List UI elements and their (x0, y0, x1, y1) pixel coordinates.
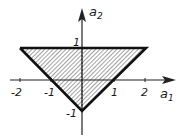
region-plot: -2 -1 1 2 1 -1 a 1 a 2 (0, 0, 190, 140)
x-tick-label: -1 (44, 86, 55, 99)
x-tick-label: 2 (141, 86, 148, 99)
y-axis-label-subscript: 2 (97, 11, 103, 21)
x-axis-label-subscript: 1 (168, 93, 174, 103)
y-axis-label: a (89, 4, 97, 19)
diagram: -2 -1 1 2 1 -1 a 1 a 2 (0, 0, 190, 140)
x-axis-label: a (160, 86, 168, 101)
x-tick-label: -2 (11, 86, 22, 99)
x-tick-label: 1 (111, 86, 118, 99)
y-tick-label: -1 (66, 107, 77, 120)
y-tick-label: 1 (73, 36, 80, 49)
